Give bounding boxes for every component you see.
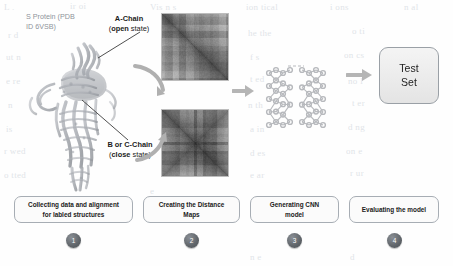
bleed-text-23: on e — [346, 146, 362, 156]
bleed-text-27: e — [150, 186, 154, 196]
cnn-edge — [309, 83, 316, 90]
cnn-edge — [276, 115, 283, 122]
step-box-4[interactable]: Evaluating the model — [349, 196, 439, 223]
bleed-text-2: Vis n s — [150, 2, 177, 12]
cnn-network-graphic — [258, 56, 334, 134]
step-number-4: 4 — [387, 233, 402, 248]
cnn-edge — [283, 115, 290, 122]
step-box-1[interactable]: Collecting data and alignment for labled… — [14, 196, 133, 223]
cnn-edge — [276, 94, 283, 101]
arrow-maps-to-cnn — [232, 82, 256, 100]
step-box-2[interactable]: Creating the Distance Maps — [143, 196, 240, 223]
cnn-edge — [269, 73, 276, 80]
figure-canvas: L .ir oiVis n sion ticali onsn alr dhe t… — [0, 0, 453, 266]
cnn-edge — [309, 94, 316, 101]
bleed-text-1: ir oi — [70, 1, 86, 11]
test-set-line1: Test — [399, 62, 418, 75]
cnn-edge — [309, 104, 316, 111]
bleed-text-29: d — [350, 252, 355, 262]
step-4-line1: Evaluating the model — [362, 205, 426, 214]
bleed-text-7: he the — [248, 28, 272, 38]
callout-bc-chain-line2: (close state) — [92, 150, 168, 160]
bleed-text-20: d ng — [348, 122, 365, 132]
bleed-text-8: o ti — [352, 26, 365, 36]
bleed-text-14: no l — [348, 76, 363, 86]
callout-a-chain: A-Chain (open state) — [96, 14, 162, 34]
step-box-3[interactable]: Generating CNN model — [250, 196, 339, 223]
bleed-text-24: o tted — [4, 170, 26, 180]
step-1-line1: Collecting data and alignment — [28, 200, 119, 209]
bleed-text-5: n al — [404, 2, 418, 12]
bleed-text-15: n — [8, 100, 13, 110]
step-3-line1: Generating CNN — [270, 200, 319, 209]
step-1-line2: for labled structures — [28, 210, 119, 219]
bleed-text-9: ut n — [6, 52, 21, 62]
cnn-edge — [316, 91, 323, 99]
protein-caption: S Protein (PDB ID 6VSB) — [26, 12, 92, 31]
step-2-line2: Maps — [159, 210, 225, 219]
bleed-text-4: i ons — [330, 2, 349, 12]
distance-map-open — [161, 13, 229, 81]
cnn-edge — [309, 115, 316, 122]
protein-structure-image — [26, 40, 134, 192]
distance-map-close — [161, 109, 229, 177]
bleed-text-6: r d — [8, 30, 19, 40]
cnn-edge — [269, 91, 276, 99]
step-3-line2: model — [270, 210, 319, 219]
bleed-text-0: L . — [4, 2, 15, 12]
bleed-text-11: on cs — [344, 50, 364, 60]
bleed-text-18: is — [6, 124, 13, 134]
distance-map-open-canvas — [162, 14, 228, 80]
test-set-box[interactable]: Test Set — [379, 47, 439, 104]
step-number-3: 3 — [287, 233, 302, 248]
bleed-text-3: ion tical — [246, 2, 278, 12]
cnn-edge — [276, 73, 283, 80]
protein-caption-line2: ID 6VSB) — [26, 22, 92, 32]
bleed-text-25: e ar — [250, 170, 264, 180]
arrow-cnn-to-testset — [346, 66, 374, 84]
callout-bc-chain-line1: B or C-Chain — [92, 140, 168, 150]
test-set-line2: Set — [401, 76, 417, 89]
cnn-edge — [316, 73, 323, 80]
cnn-edge — [302, 87, 309, 93]
callout-a-chain-line2: (open state) — [96, 24, 162, 34]
cnn-edge — [276, 104, 283, 111]
cnn-edge — [283, 87, 290, 93]
step-number-2: 2 — [184, 233, 199, 248]
step-number-1: 1 — [66, 233, 81, 248]
bleed-text-17: t er — [352, 98, 365, 108]
bleed-text-26: r ur — [350, 168, 364, 178]
bleed-text-22: d es — [250, 148, 265, 158]
cnn-edge — [309, 73, 316, 80]
cnn-edge — [276, 83, 283, 90]
cnn-edge — [302, 115, 309, 122]
distance-map-close-canvas — [162, 110, 228, 176]
callout-bc-chain: B or C-Chain (close state) — [92, 140, 168, 160]
bleed-text-21: r wed — [4, 146, 26, 156]
bleed-text-12: e re — [6, 76, 20, 86]
bleed-text-28: n e — [250, 252, 262, 262]
step-2-line1: Creating the Distance — [159, 200, 225, 209]
callout-a-chain-line1: A-Chain — [96, 14, 162, 24]
protein-caption-line1: S Protein (PDB — [26, 12, 92, 22]
